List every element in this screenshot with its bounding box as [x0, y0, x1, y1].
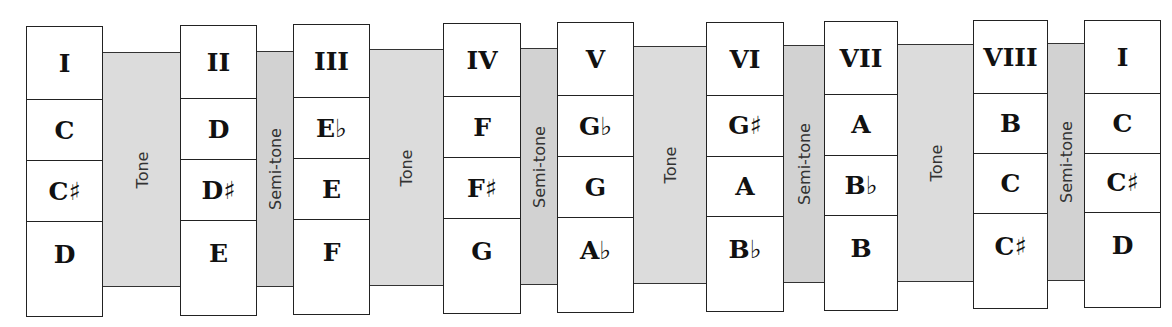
- note-cell: B♭: [825, 156, 897, 217]
- note-cell: G♯: [707, 96, 783, 157]
- interval-band-tone-3: Tone: [631, 46, 708, 284]
- note-cell: A♭: [558, 218, 633, 312]
- note-cell: C♯: [27, 161, 102, 222]
- degree-numeral: VIII: [974, 21, 1047, 94]
- degree-numeral: II: [181, 26, 256, 99]
- note-cell: F: [444, 97, 520, 158]
- note-cell: G♭: [558, 96, 633, 157]
- note-cell: A: [825, 95, 897, 156]
- interval-label: Tone: [132, 151, 151, 188]
- note-cell: C: [974, 154, 1047, 214]
- note-cell: F: [294, 220, 369, 314]
- note-cell: E♭: [294, 98, 369, 159]
- interval-band-semitone-2: Semi-tone: [518, 48, 559, 285]
- note-cell: E: [181, 221, 256, 315]
- degree-numeral: IV: [444, 24, 520, 97]
- degree-numeral: VI: [707, 23, 783, 96]
- note-cell: G: [444, 219, 520, 313]
- note-cell: E: [294, 159, 369, 220]
- degree-column-9: I C C♯ D: [1084, 20, 1161, 308]
- degree-numeral: I: [27, 27, 102, 100]
- degree-column-6: VI G♯ A B♭: [706, 22, 784, 312]
- degree-column-4: IV F F♯ G: [443, 23, 521, 314]
- interval-label: Semi-tone: [265, 128, 284, 210]
- note-cell: C: [1085, 94, 1160, 154]
- degree-column-3: III E♭ E F: [293, 24, 370, 315]
- degree-numeral: VII: [825, 22, 897, 95]
- interval-band-tone-4: Tone: [896, 44, 975, 282]
- interval-band-tone-2: Tone: [367, 49, 445, 286]
- degree-column-8: VIII B C C♯: [973, 20, 1048, 309]
- degree-column-5: V G♭ G A♭: [557, 22, 634, 313]
- degree-numeral: I: [1085, 21, 1160, 94]
- interval-label: Tone: [926, 145, 945, 182]
- note-cell: D: [181, 99, 256, 160]
- degree-column-2: II D D♯ E: [180, 25, 257, 316]
- note-cell: B: [825, 216, 897, 310]
- degree-numeral: V: [558, 23, 633, 96]
- interval-band-semitone-3: Semi-tone: [781, 45, 826, 283]
- interval-label: Tone: [660, 147, 679, 184]
- note-cell: F♯: [444, 158, 520, 219]
- interval-band-tone-1: Tone: [101, 52, 182, 287]
- interval-label: Semi-tone: [1056, 121, 1075, 203]
- degree-column-7: VII A B♭ B: [824, 21, 898, 311]
- interval-band-semitone-4: Semi-tone: [1045, 43, 1086, 281]
- note-cell: B: [974, 94, 1047, 154]
- note-cell: A: [707, 157, 783, 218]
- note-cell: C: [27, 100, 102, 161]
- interval-label: Semi-tone: [794, 123, 813, 205]
- note-cell: D♯: [181, 160, 256, 221]
- note-cell: D: [1085, 213, 1160, 307]
- note-cell: B♭: [707, 217, 783, 311]
- note-cell: G: [558, 157, 633, 218]
- note-cell: C♯: [1085, 154, 1160, 214]
- interval-band-semitone-1: Semi-tone: [254, 51, 295, 287]
- interval-label: Semi-tone: [529, 126, 548, 208]
- degree-numeral: III: [294, 25, 369, 98]
- degree-column-1: I C C♯ D: [26, 26, 103, 317]
- interval-label: Tone: [397, 149, 416, 186]
- note-cell: D: [27, 222, 102, 316]
- note-cell: C♯: [974, 214, 1047, 308]
